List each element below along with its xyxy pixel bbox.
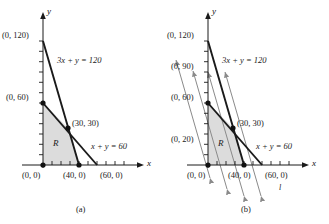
point-label-30-30-b: (30, 30) bbox=[237, 118, 264, 128]
y-axis-ticks-a bbox=[39, 41, 43, 155]
equation-label-x-y-60-a: x + y = 60 bbox=[91, 141, 127, 151]
point-label-0-0-a: (0, 0) bbox=[22, 170, 40, 180]
equation-label-3x-y-120-b: 3x + y = 120 bbox=[222, 55, 267, 65]
axis-label-y-b: y bbox=[212, 6, 216, 16]
axis-label-x-a: x bbox=[147, 158, 151, 168]
point-label-60-0-a: (60, 0) bbox=[100, 170, 123, 180]
panel-b: y x (0, 120) (0, 90) (0, 60) (0, 20) (30… bbox=[165, 0, 329, 224]
vertex-dot-0-60-a bbox=[40, 100, 45, 105]
panel-caption-b: (b) bbox=[241, 204, 251, 214]
vertex-dot-30-30-b bbox=[230, 125, 235, 130]
point-label-0-60-b: (0, 60) bbox=[171, 92, 194, 102]
equation-label-3x-y-120-a: 3x + y = 120 bbox=[57, 55, 102, 65]
point-label-40-0-a: (40, 0) bbox=[63, 170, 86, 180]
point-label-0-120-a: (0, 120) bbox=[2, 30, 29, 40]
y-axis-arrowhead-a bbox=[40, 12, 46, 19]
point-label-40-0-b: (40, 0) bbox=[228, 170, 251, 180]
x-axis-arrowhead-a bbox=[137, 162, 144, 168]
y-axis-ticks-b bbox=[204, 41, 208, 155]
vertex-dot-0-60-b bbox=[205, 100, 210, 105]
vertex-dot-0-0-a bbox=[40, 162, 45, 167]
figure-container: y x (0, 120) (0, 60) (30, 30) (0, 0) (40… bbox=[0, 0, 329, 224]
axis-label-y-a: y bbox=[47, 6, 51, 16]
vertex-dot-30-30-a bbox=[65, 125, 70, 130]
x-axis-arrowhead-b bbox=[302, 162, 309, 168]
feasible-region-a bbox=[43, 103, 79, 165]
point-label-0-0-b: (0, 0) bbox=[187, 170, 205, 180]
region-label-b: R bbox=[218, 138, 224, 148]
point-label-0-120-b: (0, 120) bbox=[167, 30, 194, 40]
level-line-1-b bbox=[176, 60, 210, 178]
point-label-0-20-b: (0, 20) bbox=[171, 134, 194, 144]
panel-a: y x (0, 120) (0, 60) (30, 30) (0, 0) (40… bbox=[0, 0, 164, 224]
point-label-0-90-b: (0, 90) bbox=[171, 61, 194, 71]
panel-caption-a: (a) bbox=[76, 204, 85, 214]
axis-label-x-b: x bbox=[312, 158, 316, 168]
equation-label-x-y-60-b: x + y = 60 bbox=[256, 141, 292, 151]
objective-line-label-l-b: l bbox=[279, 183, 281, 192]
y-axis-arrowhead-b bbox=[205, 12, 211, 19]
vertex-dot-40-0-b bbox=[241, 162, 246, 167]
vertex-dot-0-0-b bbox=[205, 162, 210, 167]
point-label-30-30-a: (30, 30) bbox=[72, 118, 99, 128]
region-label-a: R bbox=[53, 138, 59, 148]
point-label-0-60-a: (0, 60) bbox=[6, 92, 29, 102]
point-label-60-0-b: (60, 0) bbox=[265, 170, 288, 180]
vertex-dot-40-0-a bbox=[76, 162, 81, 167]
